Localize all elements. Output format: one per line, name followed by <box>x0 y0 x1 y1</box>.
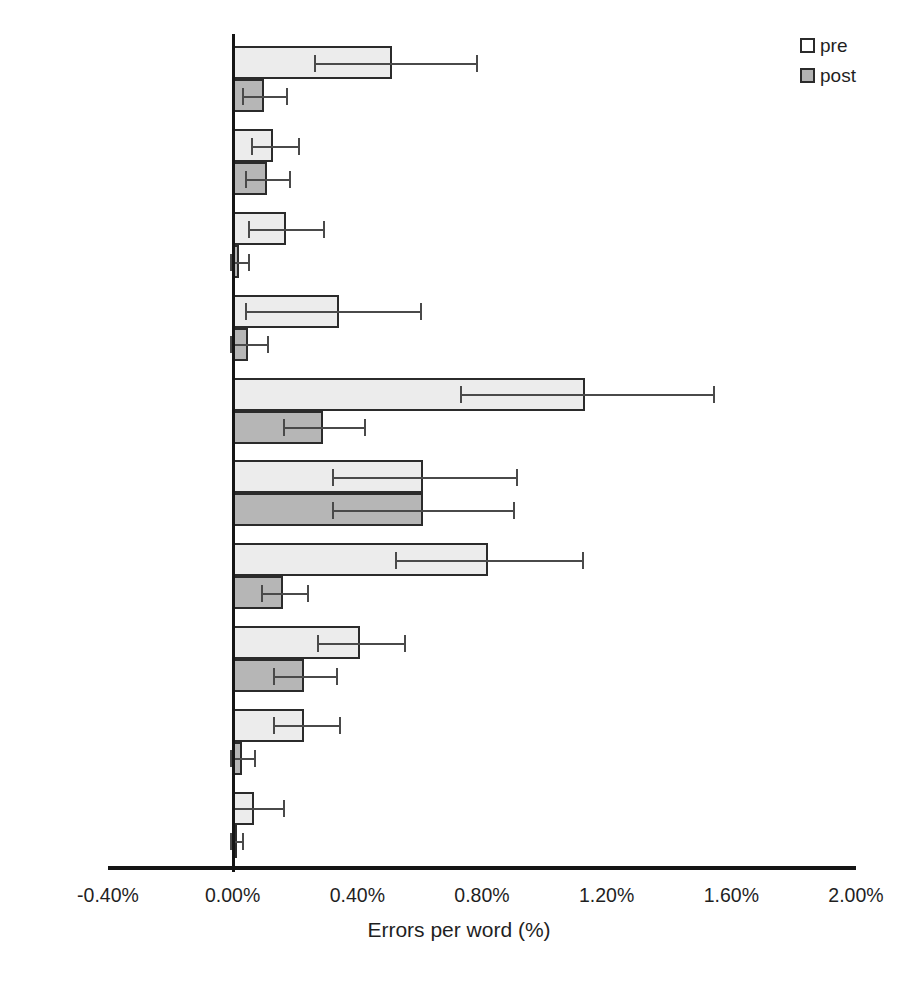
error-bar-cap <box>513 502 515 519</box>
error-bar-pre <box>273 725 338 727</box>
error-bar-pre <box>314 63 476 65</box>
error-bar-pre <box>245 311 420 313</box>
error-bar-cap <box>283 419 285 436</box>
error-bar-cap <box>261 585 263 602</box>
error-bar-cap <box>251 138 253 155</box>
x-axis-tick-label: 1.20% <box>579 884 634 907</box>
x-axis-line <box>108 866 856 870</box>
error-bar-pre <box>332 477 516 479</box>
error-bar-pre <box>251 146 298 148</box>
error-bar-cap <box>336 668 338 685</box>
error-bar-pre <box>395 560 582 562</box>
error-bar-cap <box>582 552 584 569</box>
error-bar-cap <box>317 635 319 652</box>
error-bar-pre <box>460 394 712 396</box>
error-bar-cap <box>364 419 366 436</box>
error-bar-post <box>332 510 513 512</box>
y-axis-line <box>232 34 235 872</box>
error-bar-cap <box>286 88 288 105</box>
error-bar-post <box>230 344 267 346</box>
error-bar-cap <box>248 221 250 238</box>
error-bar-cap <box>298 138 300 155</box>
error-bar-cap <box>242 833 244 850</box>
error-bar-cap <box>273 668 275 685</box>
error-bar-pre <box>248 229 323 231</box>
error-bar-cap <box>420 303 422 320</box>
error-bar-cap <box>404 635 406 652</box>
legend-label-post: post <box>820 66 856 85</box>
legend-swatch-pre-icon <box>800 38 815 53</box>
error-bar-cap <box>460 386 462 403</box>
x-axis-tick-label: 0.00% <box>205 884 260 907</box>
error-bar-pre <box>233 808 283 810</box>
error-bar-cap <box>289 171 291 188</box>
error-bar-post <box>261 593 308 595</box>
error-bar-post <box>283 427 364 429</box>
x-axis-tick-label: -0.40% <box>77 884 139 907</box>
error-bar-cap <box>283 800 285 817</box>
error-bar-cap <box>248 254 250 271</box>
error-bar-post <box>273 676 335 678</box>
error-bar-cap <box>339 717 341 734</box>
legend-item-post[interactable]: post <box>776 60 896 90</box>
legend-label-pre: pre <box>820 36 847 55</box>
error-bar-cap <box>245 171 247 188</box>
legend-item-pre[interactable]: pre <box>776 30 896 60</box>
error-bar-cap <box>307 585 309 602</box>
chart-legend: pre post <box>776 30 896 90</box>
error-bar-cap <box>332 502 334 519</box>
error-bar-cap <box>273 717 275 734</box>
error-bar-cap <box>245 303 247 320</box>
error-bar-cap <box>476 55 478 72</box>
error-bar-cap <box>267 336 269 353</box>
x-axis-tick-label: 0.80% <box>454 884 509 907</box>
error-bar-post <box>245 179 289 181</box>
error-bar-cap <box>314 55 316 72</box>
error-bar-cap <box>242 88 244 105</box>
error-bar-cap <box>332 469 334 486</box>
bar-chart: pre post verb formprepositionfalse spell… <box>0 0 918 987</box>
error-bar-cap <box>395 552 397 569</box>
error-bar-cap <box>516 469 518 486</box>
error-bar-cap <box>254 750 256 767</box>
error-bar-post <box>242 96 286 98</box>
x-axis-tick-label: 2.00% <box>828 884 883 907</box>
error-bar-pre <box>317 643 404 645</box>
legend-swatch-post-icon <box>800 68 815 83</box>
error-bar-cap <box>713 386 715 403</box>
error-bar-cap <box>323 221 325 238</box>
x-axis-tick-label: 1.60% <box>704 884 759 907</box>
x-axis-title: Errors per word (%) <box>0 918 918 942</box>
x-axis-tick-label: 0.40% <box>330 884 385 907</box>
